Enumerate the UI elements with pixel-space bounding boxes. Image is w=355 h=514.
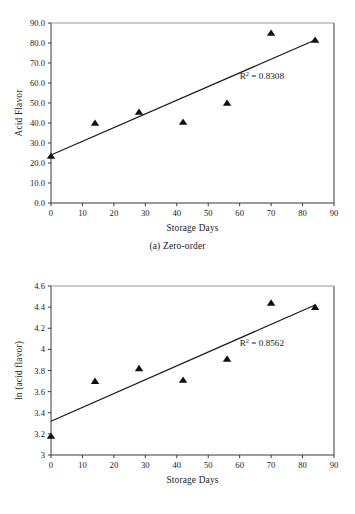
x-tick-label: 70: [267, 460, 276, 470]
x-tick-label: 10: [78, 208, 87, 218]
y-tick-label: 50.0: [30, 98, 45, 108]
y-tick-label: 40.0: [30, 118, 45, 128]
x-tick-label: 90: [330, 460, 339, 470]
x-tick-label: 80: [298, 460, 307, 470]
x-tick-label: 50: [204, 208, 213, 218]
y-axis-title: ln (acid flavor): [14, 341, 25, 400]
r2-annotation: R2 = 0.8308: [240, 70, 285, 81]
x-tick-label: 60: [235, 460, 244, 470]
data-point-marker: [47, 432, 55, 438]
y-tick-label: 3: [41, 450, 45, 460]
y-axis-title-group: Acid Flavor: [14, 89, 24, 137]
y-axis-title-group: ln (acid flavor): [14, 341, 25, 400]
chart-panel-a: 0.010.020.030.040.050.060.070.080.090.00…: [0, 0, 355, 257]
r2-value: = 0.8308: [249, 71, 284, 81]
x-tick-label: 40: [172, 460, 181, 470]
x-tick-label: 50: [204, 460, 213, 470]
regression-line: [51, 40, 315, 155]
y-tick-label: 80.0: [30, 38, 45, 48]
data-point-marker: [311, 36, 319, 42]
y-tick-label: 4.2: [34, 323, 45, 333]
y-tick-label: 20.0: [30, 158, 45, 168]
chart-b-plot: 33.23.43.63.844.24.44.601020304050607080…: [0, 257, 355, 497]
x-tick-label: 80: [298, 208, 307, 218]
data-point-marker: [91, 119, 99, 125]
y-axis-title: Acid Flavor: [14, 89, 24, 137]
y-tick-label: 4.6: [34, 281, 45, 291]
y-tick-label: 3.2: [34, 429, 45, 439]
regression-line: [51, 305, 315, 421]
r2-value: = 0.8562: [249, 338, 284, 348]
chart-panel-b: 33.23.43.63.844.24.44.601020304050607080…: [0, 257, 355, 514]
data-point-marker: [135, 108, 143, 114]
y-tick-label: 10.0: [30, 178, 45, 188]
x-tick-label: 0: [49, 208, 53, 218]
x-tick-label: 90: [330, 208, 339, 218]
y-tick-label: 3.4: [34, 408, 45, 418]
y-tick-label: 60.0: [30, 78, 45, 88]
plot-frame: [51, 286, 334, 455]
x-tick-label: 30: [141, 208, 150, 218]
y-tick-label: 4.4: [34, 302, 45, 312]
data-point-marker: [267, 29, 275, 35]
x-tick-label: 20: [110, 460, 119, 470]
x-tick-label: 40: [172, 208, 181, 218]
x-axis-title: Storage Days: [166, 475, 218, 485]
data-point-marker: [179, 118, 187, 124]
data-point-marker: [223, 355, 231, 361]
y-tick-label: 30.0: [30, 138, 45, 148]
y-tick-label: 4: [41, 344, 46, 354]
y-tick-label: 70.0: [30, 58, 45, 68]
x-tick-label: 30: [141, 460, 150, 470]
x-tick-label: 20: [110, 208, 119, 218]
y-tick-label: 0.0: [34, 198, 45, 208]
y-tick-label: 3.8: [34, 366, 45, 376]
y-tick-label: 90.0: [30, 18, 45, 28]
data-point-marker: [91, 377, 99, 383]
data-point-marker: [179, 376, 187, 382]
x-tick-label: 0: [49, 460, 53, 470]
x-axis-title: Storage Days: [166, 223, 218, 233]
chart-a-plot: 0.010.020.030.040.050.060.070.080.090.00…: [0, 0, 355, 240]
figure-page: 0.010.020.030.040.050.060.070.080.090.00…: [0, 0, 355, 514]
chart-a-caption: (a) Zero-order: [0, 241, 355, 251]
x-tick-label: 60: [235, 208, 244, 218]
data-point-marker: [135, 365, 143, 371]
r2-annotation: R2 = 0.8562: [240, 337, 285, 348]
data-point-marker: [267, 299, 275, 305]
data-point-marker: [223, 99, 231, 105]
x-tick-label: 70: [267, 208, 276, 218]
y-tick-label: 3.6: [34, 387, 45, 397]
x-tick-label: 10: [78, 460, 87, 470]
